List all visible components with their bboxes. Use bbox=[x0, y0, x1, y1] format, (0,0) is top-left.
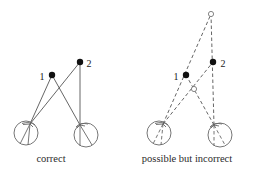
left-eye-icon bbox=[14, 121, 38, 145]
ghost-point-near bbox=[191, 86, 196, 91]
point-2-incorrect bbox=[210, 59, 216, 65]
points-incorrect bbox=[183, 11, 216, 91]
sight-line-left-eye-to-point-1 bbox=[30, 75, 52, 124]
sight-line-right-eye-to-far-ghost bbox=[211, 14, 214, 125]
sight-line-right-eye-to-point-1 bbox=[186, 75, 214, 125]
ghost-point-far bbox=[208, 11, 213, 16]
point-2-label-incorrect: 2 bbox=[221, 58, 226, 69]
right-eye-icon bbox=[74, 123, 98, 147]
panel-correct bbox=[14, 62, 98, 147]
sight-line-left-eye-to-point-2 bbox=[163, 62, 213, 124]
point-1-label-incorrect: 1 bbox=[174, 71, 179, 82]
left-eye-icon bbox=[147, 121, 171, 145]
caption-possible-but-incorrect: possible but incorrect bbox=[142, 153, 232, 164]
point-2-correct bbox=[77, 59, 83, 65]
point-2-label-correct: 2 bbox=[87, 58, 92, 69]
sight-line-right-eye-to-point-1 bbox=[52, 75, 80, 125]
caption-correct: correct bbox=[36, 153, 65, 164]
point-1-incorrect bbox=[183, 72, 189, 78]
points-correct bbox=[49, 59, 83, 78]
sight-line-left-eye-to-point-2 bbox=[30, 62, 80, 124]
stereo-vision-diagram bbox=[0, 0, 253, 176]
panel-possible-but-incorrect bbox=[147, 14, 232, 147]
point-1-label-correct: 1 bbox=[40, 71, 45, 82]
right-eye-icon bbox=[208, 123, 232, 147]
point-1-correct bbox=[49, 72, 55, 78]
